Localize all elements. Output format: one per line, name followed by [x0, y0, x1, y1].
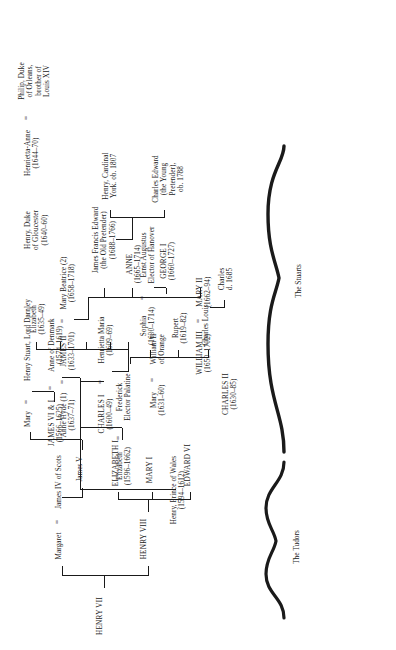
- node-elizabeth-bohemia: Elizabeth (1596–1662): [116, 442, 133, 490]
- person-name: GEORGE I: [160, 234, 168, 288]
- tudors-brace: [262, 460, 288, 620]
- person-dates: of Orange: [158, 322, 166, 376]
- connector: [82, 440, 83, 450]
- person-name: CHARLES II: [222, 368, 230, 420]
- person-name: WILLIAM III: [196, 324, 204, 382]
- person-dates: (1630–85): [230, 368, 238, 420]
- marriage-symbol: =: [116, 436, 123, 440]
- node-anne: ANNE (1665–1714): [126, 240, 143, 288]
- person-name: JAMES II: [60, 325, 68, 377]
- person-dates: (1594–1612): [178, 452, 186, 528]
- marriage-symbol: =: [98, 380, 105, 384]
- person-name: HENRY VII: [96, 588, 104, 644]
- node-frederick: Frederick Elector Palatine: [116, 362, 133, 432]
- person-dates: Elector Palatine: [124, 362, 132, 432]
- node-henrietta-maria: Henrietta Maria (1609–69): [98, 304, 115, 376]
- marriage-symbol: =: [24, 116, 31, 120]
- person-name: Charles: [218, 258, 226, 300]
- person-name: Anne of Denmark: [48, 308, 56, 382]
- node-rupert: Rupert (1619–82): [172, 306, 189, 350]
- person-dates: (1644–70): [32, 122, 40, 184]
- connector: [148, 500, 149, 512]
- connector: [74, 319, 88, 320]
- node-henry-viii: HENRY VIII: [140, 512, 148, 566]
- marriage-symbol: =: [196, 319, 203, 323]
- person-name: Henrietta-Anne: [24, 122, 32, 184]
- group-label-stuarts: The Stuarts: [294, 264, 303, 298]
- person-name: Mary: [150, 382, 158, 418]
- person-name: James IV of Scots: [55, 447, 63, 517]
- connector: [178, 350, 179, 358]
- person-name: ANNE: [126, 240, 134, 288]
- person-dates: (1609–69): [106, 304, 114, 376]
- node-mary-i: MARY I: [146, 448, 154, 492]
- marriage-symbol: =: [60, 319, 67, 323]
- person-name: Elizabeth: [30, 296, 38, 342]
- person-name: MARY I: [146, 448, 154, 492]
- connector: [110, 217, 164, 218]
- connector: [190, 492, 191, 500]
- person-dates: (1637–71): [68, 386, 76, 444]
- family-tree-chart: HENRY VII HENRY VIII Margaret = James IV…: [0, 0, 396, 650]
- connector: [148, 566, 149, 576]
- connector: [128, 342, 129, 350]
- connector: [118, 492, 119, 500]
- person-name: Frederick: [116, 362, 124, 432]
- person-dates: (1658–1718): [68, 250, 76, 316]
- group-label-tudors: The Tudors: [292, 530, 301, 564]
- connector: [164, 210, 165, 218]
- person-name: Sophia: [140, 302, 148, 350]
- node-mary-princess-royal: Mary (1631–60): [150, 382, 167, 418]
- person-dates: (1662–94): [204, 268, 212, 316]
- connector: [132, 288, 133, 298]
- node-william-iii: WILLIAM III (1650–1702): [196, 324, 213, 382]
- person-name: Henry, Duke: [24, 202, 32, 258]
- node-james-iv: James IV of Scots: [55, 447, 63, 517]
- person-dates: of Orleans, brother of Louis XIV: [26, 52, 51, 110]
- connector: [132, 218, 133, 240]
- connector: [62, 377, 80, 378]
- person-name: JAMES VI & I: [48, 392, 56, 454]
- person-name: HENRY VIII: [140, 512, 148, 566]
- connector: [130, 358, 131, 364]
- node-mary-beatrice: Mary Beatrice (2) (1658–1718): [60, 250, 77, 316]
- connector: [110, 342, 111, 350]
- connector: [62, 575, 148, 576]
- node-anne-hyde: Anne Hyde (1) (1637–71): [60, 386, 77, 444]
- person-name: MARY II: [196, 268, 204, 316]
- connector: [110, 210, 111, 218]
- node-charles-i: CHARLES I (1600–49): [98, 386, 115, 442]
- person-name: Philip, Duke: [18, 52, 26, 110]
- person-dates: (1665–1714): [134, 240, 142, 288]
- connector: [224, 300, 225, 308]
- person-dates: Elector of Hanover: [148, 218, 156, 292]
- node-charles-d-1685: Charles d. 1685: [218, 258, 235, 300]
- connector: [36, 349, 128, 350]
- person-name: Charles Edward: [152, 148, 160, 210]
- node-henry-vii: HENRY VII: [96, 588, 104, 644]
- node-mary-queen-of-scots: Mary: [24, 406, 32, 432]
- stuarts-brace: [262, 144, 290, 454]
- connector: [36, 342, 37, 350]
- connector: [104, 576, 105, 588]
- person-name: Henry, Prince of Wales: [170, 452, 178, 528]
- node-margaret: Margaret: [55, 526, 63, 566]
- node-philip-duke-of-orleans: Philip, Duke of Orleans, brother of Loui…: [18, 52, 52, 110]
- node-henry-prince-of-wales: Henry, Prince of Wales (1594–1612): [170, 452, 187, 528]
- person-name: Elizabeth: [116, 442, 124, 490]
- person-dates: (1660–1727): [168, 234, 176, 288]
- person-name: CHARLES I: [98, 386, 106, 442]
- person-name: Henry, Cardinal: [102, 142, 110, 210]
- person-name: Anne Hyde (1): [60, 386, 68, 444]
- person-dates: (1619–82): [180, 306, 188, 350]
- connector: [30, 432, 31, 440]
- node-william-ii-of-orange: William II of Orange: [150, 322, 167, 376]
- node-mary-ii: MARY II (1662–94): [196, 268, 213, 316]
- person-name: Henrietta Maria: [98, 304, 106, 376]
- connector: [80, 378, 81, 490]
- person-dates: of Gloucester (1640–60): [32, 202, 49, 258]
- person-dates: (1650–1702): [204, 324, 212, 382]
- connector: [62, 566, 63, 576]
- connector: [166, 288, 167, 294]
- person-name: Mary Beatrice (2): [60, 250, 68, 316]
